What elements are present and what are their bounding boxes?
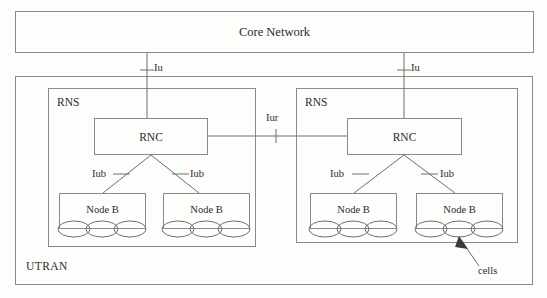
iub-label-2: Iub [190, 169, 204, 180]
utran-label: UTRAN [26, 261, 68, 273]
iub-label-1: Iub [92, 169, 106, 180]
rns-left-label: RNS [57, 97, 79, 109]
rnc-left-label: RNC [94, 118, 208, 155]
cells-annotation-label: cells [478, 266, 497, 277]
node-b-label-3: Node B [310, 196, 397, 222]
iub-label-3: Iub [330, 169, 344, 180]
iur-label: Iur [266, 113, 278, 124]
rns-right-label: RNS [305, 97, 327, 109]
node-b-label-2: Node B [163, 196, 250, 222]
iu-left-label: Iu [154, 63, 163, 74]
core-network-label: Core Network [15, 11, 534, 53]
diagram-canvas: Core Network UTRAN RNS RNS RNC RNC Node … [0, 0, 547, 298]
node-b-label-4: Node B [416, 196, 503, 222]
node-b-label-1: Node B [59, 196, 146, 222]
rnc-right-label: RNC [347, 118, 462, 155]
iub-label-4: Iub [440, 169, 454, 180]
iu-right-label: Iu [411, 63, 420, 74]
